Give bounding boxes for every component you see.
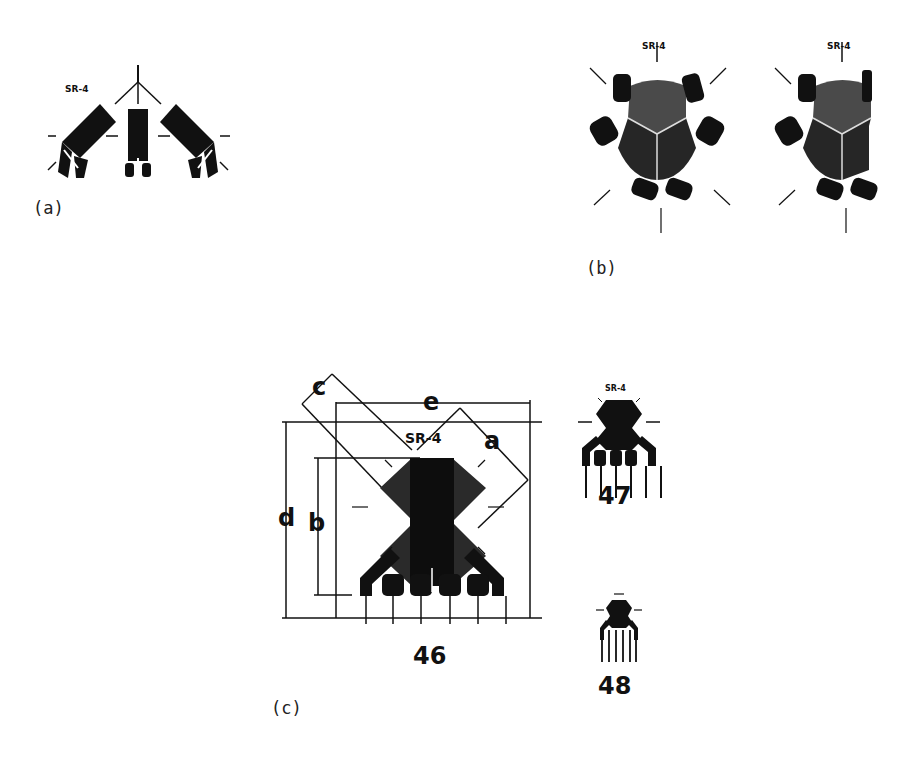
delta-rosette-right [765,30,923,270]
rosette-48-drawing [594,590,654,670]
panel-a: SR-4 (a) [0,0,300,210]
dimension-label-e: e [423,388,439,416]
rosette-46-drawing [260,370,560,630]
gauge-marking-46: SR-4 [405,430,441,446]
gauge-marking-47: SR-4 [605,384,626,393]
panel-label-a: (a) [33,198,64,218]
delta-rosette-left [580,30,760,270]
panel-b: SR-4 SR-4 [560,0,923,290]
dimension-label-a: a [484,427,500,455]
gauge-number-48: 48 [598,672,631,700]
panel-label-b: (b) [586,258,617,278]
panel-label-c: (c) [271,698,302,718]
dimension-label-b: b [308,509,325,537]
gauge-number-46: 46 [413,642,446,670]
gauge-number-47: 47 [598,482,631,510]
dimension-label-d: d [278,504,295,532]
rosette-a-drawing [0,0,300,200]
dimension-label-c: c [312,373,326,401]
panel-c: SR-4 c e a d b 46 SR-4 47 [0,370,923,776]
